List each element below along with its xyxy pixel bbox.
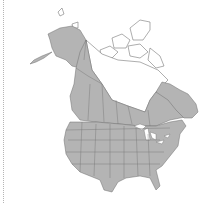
range-map [0,0,215,203]
united-states [64,120,186,192]
